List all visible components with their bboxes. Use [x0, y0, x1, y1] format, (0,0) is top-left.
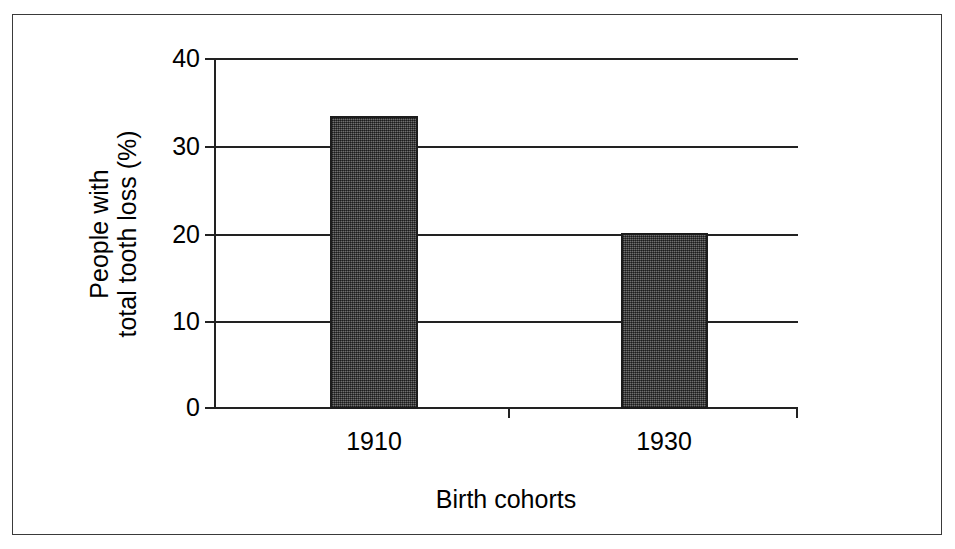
y-tick-label-30: 30 — [172, 133, 200, 158]
y-axis-title-line-2: total tooth loss (%) — [115, 130, 140, 337]
gridline-40 — [214, 58, 798, 60]
y-tick-10 — [205, 321, 214, 323]
y-axis-title: People with total tooth loss (%) — [85, 58, 141, 409]
y-tick-label-10: 10 — [172, 309, 200, 334]
y-tick-30 — [205, 146, 214, 148]
figure-frame: People with total tooth loss (%) 40 30 2… — [12, 14, 942, 535]
y-tick-label-0: 0 — [186, 395, 200, 420]
x-axis-title: Birth cohorts — [214, 487, 798, 512]
y-axis-title-line-1: People with — [87, 169, 112, 298]
x-axis-baseline — [214, 407, 798, 409]
plot-area: 40 30 20 10 0 1910 1930 — [214, 58, 798, 409]
y-tick-label-40: 40 — [172, 46, 200, 71]
bar-1910[interactable] — [330, 116, 418, 409]
gridline-30 — [214, 146, 798, 148]
gridline-10 — [214, 321, 798, 323]
y-tick-label-20: 20 — [172, 221, 200, 246]
gridline-20 — [214, 234, 798, 236]
bar-1930[interactable] — [621, 233, 708, 409]
y-tick-0 — [205, 407, 214, 409]
bar-chart: People with total tooth loss (%) 40 30 2… — [13, 15, 943, 536]
y-tick-40 — [205, 58, 214, 60]
x-tick-label-1930: 1930 — [636, 429, 692, 454]
y-tick-20 — [205, 234, 214, 236]
x-tick-center — [508, 409, 510, 418]
x-tick-right-end — [796, 409, 798, 418]
x-tick-label-1910: 1910 — [346, 429, 402, 454]
